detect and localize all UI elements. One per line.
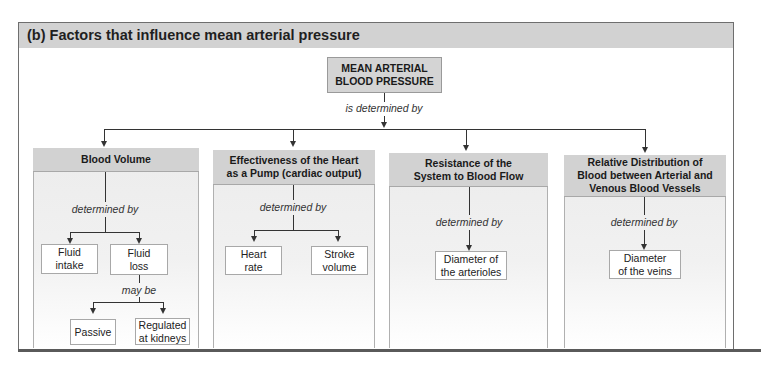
node-text: rate (241, 261, 267, 274)
arrow-down-icon (642, 147, 648, 153)
arrow-down-icon (335, 236, 341, 242)
node-text: Heart (241, 248, 267, 261)
root-line-1: MEAN ARTERIAL (328, 62, 441, 75)
node-passive: Passive (70, 319, 116, 345)
root-node-mean-arterial-pressure: MEAN ARTERIAL BLOOD PRESSURE (327, 57, 442, 93)
connector-line (384, 93, 385, 102)
node-text: Fluid (128, 247, 151, 260)
node-fluid-loss: Fluidloss (110, 244, 168, 275)
connector-line (469, 187, 470, 215)
connector-line (644, 197, 645, 215)
column-title: Relative Distribution of (577, 156, 713, 169)
branch-line (254, 230, 339, 231)
arrow-down-icon (381, 122, 387, 128)
node-text: Fluid (55, 246, 83, 259)
node-text: at kidneys (139, 332, 187, 345)
node-stroke-volume: Strokevolume (311, 246, 368, 275)
arrow-down-icon (90, 308, 96, 314)
root-connector-label: is determined by (334, 102, 434, 114)
column-title: Effectiveness of the Heart (227, 154, 362, 167)
node-text: Passive (75, 326, 112, 339)
column-header-blood-volume: Blood Volume (33, 148, 199, 172)
node-regulated-at-kidneys: Regulatedat kidneys (135, 318, 190, 345)
node-text: intake (55, 259, 83, 272)
arrow-down-icon (290, 141, 296, 147)
node-diameter-veins: Diameterof the veins (609, 250, 681, 279)
node-fluid-intake: Fluidintake (41, 244, 98, 274)
node-heart-rate: Heartrate (225, 246, 282, 275)
column-title: Blood between Arterial and (577, 169, 713, 182)
column-header-resistance: Resistance of theSystem to Blood Flow (389, 153, 548, 187)
connector-line (139, 275, 140, 283)
node-text: the arterioles (441, 266, 502, 279)
branch-line (93, 302, 164, 303)
connector-line (645, 129, 646, 148)
column-title: System to Blood Flow (414, 170, 524, 183)
connector-line (105, 172, 106, 202)
node-text: loss (128, 260, 151, 273)
sub-connector-label: may be (110, 284, 168, 296)
bottom-rule (18, 349, 761, 352)
connector-label: determined by (594, 216, 694, 228)
column-title: Venous Blood Vessels (577, 182, 713, 195)
node-text: Diameter of (441, 253, 502, 266)
connector-line (105, 217, 106, 232)
connector-label: determined by (419, 216, 519, 228)
column-header-cardiac-output: Effectiveness of the Heartas a Pump (car… (213, 150, 375, 185)
arrow-down-icon (101, 141, 107, 147)
column-header-relative-distribution: Relative Distribution ofBlood between Ar… (564, 155, 726, 197)
arrow-down-icon (160, 308, 166, 314)
column-title: as a Pump (cardiac output) (227, 167, 362, 180)
node-text: Diameter (618, 252, 672, 265)
node-diameter-arterioles: Diameter ofthe arterioles (435, 251, 507, 280)
arrow-down-icon (463, 145, 469, 151)
connector-line (293, 185, 294, 200)
figure-title: (b) Factors that influence mean arterial… (27, 27, 360, 43)
branch-line (104, 129, 646, 130)
connector-line (466, 129, 467, 146)
node-text: Regulated (139, 319, 187, 332)
arrow-down-icon (251, 236, 257, 242)
connector-label: determined by (55, 203, 155, 215)
node-text: Stroke (323, 248, 357, 261)
column-title: Blood Volume (81, 153, 151, 166)
node-text: of the veins (618, 265, 672, 278)
branch-line (70, 232, 140, 233)
connector-label: determined by (243, 201, 343, 213)
node-text: volume (323, 261, 357, 274)
connector-line (293, 215, 294, 230)
root-line-2: BLOOD PRESSURE (328, 75, 441, 88)
column-title: Resistance of the (414, 157, 524, 170)
